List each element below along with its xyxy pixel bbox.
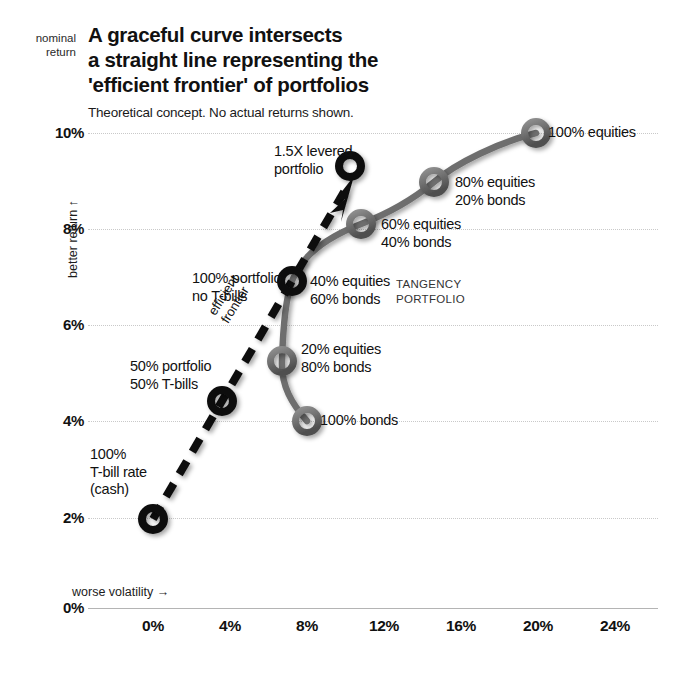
- label-100-tbill-rate-cash: 100% T-bill rate (cash): [90, 446, 147, 499]
- chart-plot-area: 10% 8% 6% 4% 2% 0% 0% 4% 8% 12% 16% 20% …: [0, 0, 676, 673]
- chart-svg: [0, 0, 676, 673]
- label-20-equities: 20% equities 80% bonds: [301, 341, 381, 376]
- label-80-equities: 80% equities 20% bonds: [455, 174, 535, 209]
- label-1-5x-levered: 1.5X levered portfolio: [274, 143, 352, 178]
- label-100-bonds: 100% bonds: [320, 412, 398, 430]
- label-100-equities: 100% equities: [548, 124, 636, 142]
- label-50-portfolio-50-tbills: 50% portfolio 50% T-bills: [130, 358, 211, 393]
- label-tangency-portfolio: TANGENCY PORTFOLIO: [396, 277, 465, 307]
- label-40-equities: 40% equities 60% bonds: [310, 273, 390, 308]
- label-60-equities: 60% equities 40% bonds: [381, 216, 461, 251]
